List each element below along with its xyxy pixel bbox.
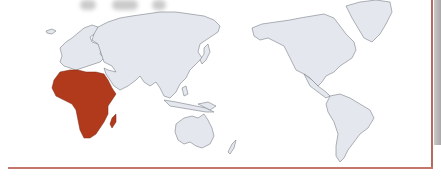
region-south-america xyxy=(326,94,374,162)
region-greenland xyxy=(346,0,392,42)
region-asia xyxy=(92,12,220,98)
region-australia xyxy=(175,114,214,148)
region-new-zealand xyxy=(228,140,236,154)
frame-border-bottom xyxy=(8,167,433,169)
frame-border-right xyxy=(431,0,433,168)
region-philippines xyxy=(182,86,188,96)
region-japan xyxy=(200,44,210,64)
map-frame xyxy=(0,0,441,178)
region-iceland xyxy=(46,29,56,34)
region-africa xyxy=(52,70,116,138)
region-madagascar xyxy=(110,114,116,128)
page-shadow xyxy=(434,0,441,145)
region-north-america xyxy=(252,14,356,86)
world-map xyxy=(0,0,441,178)
